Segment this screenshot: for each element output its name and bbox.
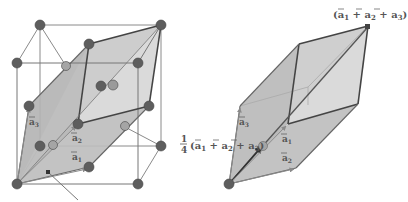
atom <box>62 62 71 71</box>
atom <box>12 179 22 189</box>
crystal-diagram: a3 a2 a1 <box>0 0 408 202</box>
atom <box>35 20 45 30</box>
atom <box>156 20 166 30</box>
atom <box>121 122 130 131</box>
atom <box>12 58 22 68</box>
left-panel: a3 a2 a1 <box>12 20 166 200</box>
tetrahedral-site-marker <box>46 170 50 174</box>
atom <box>96 81 106 91</box>
svg-text:1: 1 <box>181 134 187 144</box>
svg-text:4: 4 <box>181 145 187 155</box>
atom <box>24 101 34 111</box>
right-panel: a3 a1 a2 (a1 + a2 + a3) 1 4 (a1 + a2 + a… <box>180 9 407 189</box>
top-corner-marker <box>365 24 370 29</box>
atom <box>144 101 154 111</box>
atom <box>156 141 166 151</box>
atom <box>73 119 83 129</box>
atom <box>84 162 94 172</box>
svg-text:(a1 + a2 + a3): (a1 + a2 + a3) <box>333 9 407 22</box>
atom <box>35 141 45 151</box>
origin-atom <box>224 179 234 189</box>
atom <box>49 141 58 150</box>
atom <box>108 80 118 90</box>
atom <box>133 179 143 189</box>
atom <box>84 39 94 49</box>
pointer-line <box>48 172 78 200</box>
top-label: (a1 + a2 + a3) <box>333 9 407 22</box>
atom <box>133 58 143 68</box>
